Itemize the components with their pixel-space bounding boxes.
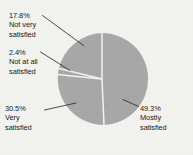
pie-label-name-line1: Not at all xyxy=(9,57,38,66)
pie-label-name-line2: satisfied xyxy=(9,30,36,39)
pie-label-name-line2: satisfied xyxy=(9,67,38,76)
pie-label-mostly-satisfied: 49.3% Mostly satisfied xyxy=(140,104,167,132)
pie-label-name-line1: Mostly xyxy=(140,113,167,122)
pie-label-percent: 30.5% xyxy=(5,104,32,113)
pie-slice-very-satisfied xyxy=(58,75,104,125)
pie-label-very-satisfied: 30.5% Very satisfied xyxy=(5,104,32,132)
pie-chart-figure: 17.8% Not very satisfied 2.4% Not at all… xyxy=(0,0,193,155)
pie-label-name-line2: satisfied xyxy=(5,123,32,132)
pie-label-name-line1: Not very xyxy=(9,20,36,29)
pie-label-name-line1: Very xyxy=(5,113,32,122)
pie-label-not-very-satisfied: 17.8% Not very satisfied xyxy=(9,11,36,39)
pie-label-percent: 49.3% xyxy=(140,104,167,113)
pie-label-percent: 17.8% xyxy=(9,11,36,20)
pie-label-not-at-all-satisfied: 2.4% Not at all satisfied xyxy=(9,48,38,76)
leader-line-not-very-satisfied xyxy=(43,16,84,46)
pie-label-name-line2: satisfied xyxy=(140,123,167,132)
pie-label-percent: 2.4% xyxy=(9,48,38,57)
